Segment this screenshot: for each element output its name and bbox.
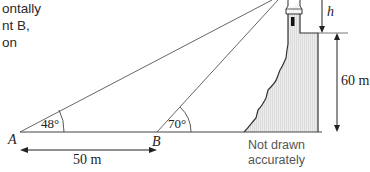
angle-A-label: 48° xyxy=(41,116,59,132)
lighthouse-diagram: ontally nt B, on xyxy=(0,0,370,172)
point-B-label: B xyxy=(152,134,161,150)
point-A-label: A xyxy=(8,132,17,148)
note-line-1: Not drawn xyxy=(248,138,305,153)
h-label: h xyxy=(327,4,334,20)
not-drawn-accurately-note: Not drawn accurately xyxy=(248,138,305,168)
cliff-height-label: 60 m xyxy=(341,73,369,89)
cliff-shape xyxy=(244,14,318,132)
note-line-2: accurately xyxy=(248,153,305,168)
lighthouse-lantern xyxy=(286,0,302,14)
angle-arc-A xyxy=(59,110,64,132)
sight-line-from-A xyxy=(20,0,272,132)
length-AB-label: 50 m xyxy=(73,152,101,168)
angle-B-label: 70° xyxy=(168,116,186,132)
diagram-graphics xyxy=(0,0,370,172)
lighthouse-window xyxy=(291,17,295,26)
